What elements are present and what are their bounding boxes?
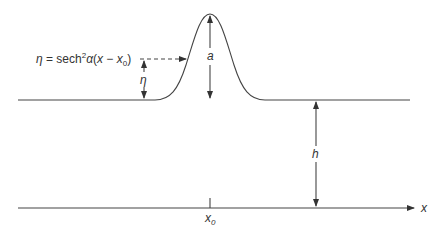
amplitude-label: a	[207, 49, 214, 63]
depth-label: h	[312, 147, 319, 161]
solitary-wave-diagram: η = sech2α(x − x0) η a h x x0	[0, 0, 434, 234]
crest-position-label: x0	[204, 211, 216, 227]
equation-label: η = sech2α(x − x0)	[36, 51, 131, 68]
eta-label: η	[140, 73, 147, 87]
x-axis-label: x	[420, 201, 428, 215]
